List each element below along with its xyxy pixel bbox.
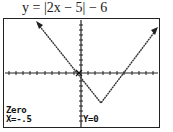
x-readout: X=-.5	[6, 115, 32, 124]
arrow-left-icon	[36, 21, 43, 29]
y-readout: Y=0	[83, 115, 98, 124]
function-curve	[38, 24, 156, 103]
arrow-right-icon	[151, 27, 158, 35]
